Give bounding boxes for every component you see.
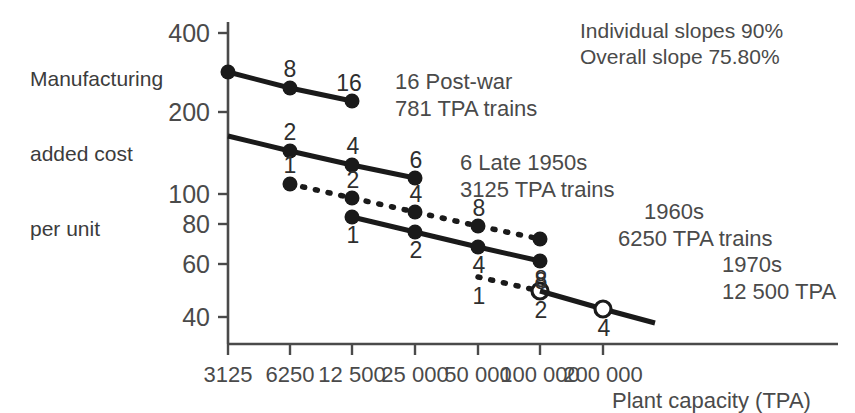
point-label-1970s-dotted-8: 8	[524, 268, 558, 295]
y-tick-label-60: 60	[120, 250, 210, 279]
point-label-1960s-dotted-2: 2	[336, 167, 370, 194]
y-tick-label-400: 400	[120, 19, 210, 48]
y-tick-label-80: 80	[120, 210, 210, 239]
point-label-late50s-2: 2	[273, 119, 307, 146]
series-late-1950s	[228, 136, 423, 186]
x-axis-title: Plant capacity (TPA)	[612, 388, 811, 413]
point-label-1970s-dotted-1: 1	[462, 283, 496, 310]
series-label-late50s-line1: 6 Late 1950s	[460, 149, 587, 176]
point-label-1960s-dotted-1: 1	[273, 152, 307, 179]
y-axis-title-line2: added cost	[30, 141, 200, 166]
y-tick-label-40: 40	[120, 303, 210, 332]
x-tick-label-200000: 200 000	[545, 362, 661, 388]
series-label-late50s-line2: 3125 TPA trains	[460, 176, 615, 203]
point-label-postwar-8: 8	[273, 56, 307, 83]
point-label-1960s-solid-4: 4	[462, 252, 496, 279]
point-label-1960s-solid-1: 1	[336, 222, 370, 249]
series-label-postwar-line1: 16 Post-war	[395, 68, 512, 95]
series-label-1960s-line1: 1960s	[644, 198, 704, 225]
point-label-1960s-dotted-4: 4	[399, 181, 433, 208]
series-label-1970s-line2: 12 500 TPA	[722, 278, 836, 305]
y-axis-title-line1: Manufacturing	[30, 66, 200, 91]
series-label-1960s-line2: 6250 TPA trains	[618, 225, 773, 252]
x-axis-ticks	[228, 344, 603, 355]
annotation-individual-slopes: Individual slopes 90%	[580, 18, 783, 44]
chart-page: Manufacturing added cost per unit 400 20…	[0, 0, 855, 413]
annotation-overall-slope: Overall slope 75.80%	[580, 44, 780, 70]
point-label-late50s-4: 4	[336, 133, 370, 160]
point-label-late50s-6: 6	[399, 147, 433, 174]
series-label-postwar-line2: 781 TPA trains	[395, 95, 537, 122]
point-label-1970s-solid-2: 2	[524, 297, 558, 324]
y-tick-label-100: 100	[120, 180, 210, 209]
series-label-1970s-line1: 1970s	[722, 251, 782, 278]
point-label-1970s-solid-4: 4	[587, 315, 621, 342]
y-tick-label-200: 200	[120, 98, 210, 127]
point-label-postwar-16: 16	[329, 70, 369, 97]
point-label-1960s-solid-2: 2	[399, 237, 433, 264]
